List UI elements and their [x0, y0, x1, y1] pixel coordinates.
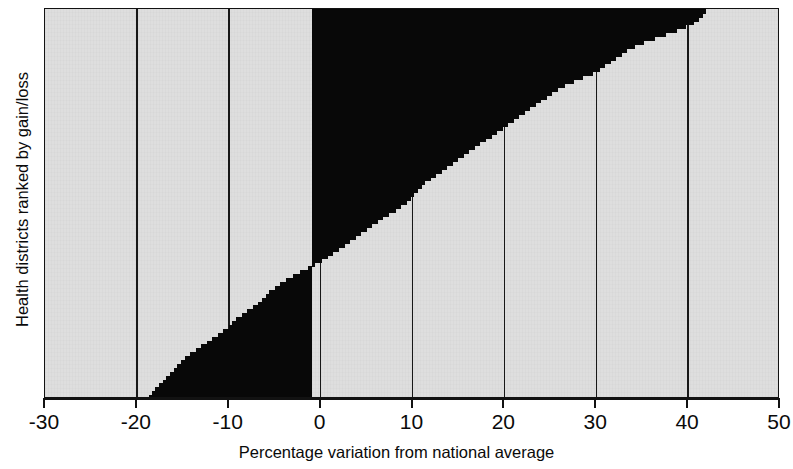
x-tick--20 [135, 398, 137, 408]
bar-row [312, 263, 315, 268]
x-tick-label: -20 [121, 410, 151, 434]
x-tick-label: 20 [492, 410, 515, 434]
chart-figure: Health districts ranked by gain/loss -30… [0, 0, 793, 469]
x-tick--30 [43, 398, 45, 408]
x-tick-20 [502, 398, 504, 408]
x-tick-0 [319, 398, 321, 408]
x-tick-label: 30 [584, 410, 607, 434]
x-axis-label: Percentage variation from national avera… [0, 443, 793, 462]
x-tick-label: 10 [400, 410, 423, 434]
x-tick-30 [594, 398, 596, 408]
plot-area [44, 8, 779, 398]
bar-series [45, 9, 778, 397]
x-tick-label: -30 [29, 410, 59, 434]
x-tick-label: 40 [675, 410, 698, 434]
x-tick-label: 0 [314, 410, 326, 434]
x-tick-40 [686, 398, 688, 408]
x-tick-10 [411, 398, 413, 408]
y-axis-label-container: Health districts ranked by gain/loss [0, 0, 44, 398]
x-tick-label: 50 [767, 410, 790, 434]
x-tick--10 [227, 398, 229, 408]
x-tick-label: -10 [213, 410, 243, 434]
x-tick-50 [778, 398, 780, 408]
y-axis-label: Health districts ranked by gain/loss [13, 72, 32, 327]
